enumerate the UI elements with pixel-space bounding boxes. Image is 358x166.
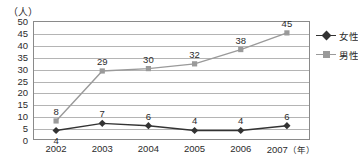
data-value-label: 6 [146, 111, 151, 120]
x-axis-unit: （年） [288, 145, 315, 155]
y-axis-tick-label: 0 [23, 136, 28, 145]
data-point-marker [145, 122, 152, 129]
data-point-marker [146, 66, 151, 71]
data-point-marker [237, 127, 244, 134]
data-value-label: 8 [53, 106, 58, 115]
data-point-marker [283, 122, 290, 129]
data-point-marker [52, 127, 59, 134]
square-marker-icon [323, 51, 330, 58]
data-point-marker [191, 127, 198, 134]
x-axis-tick-label: 2004 [138, 143, 159, 154]
line-chart-figure: （人） 05101520253035404550 476446829303238… [0, 0, 358, 166]
x-axis-tick-labels: 200220032004200520062007（年） [33, 143, 310, 159]
y-axis-tick-label: 5 [23, 124, 28, 133]
data-point-marker [192, 61, 197, 66]
x-axis-tick-label: 2003 [92, 143, 113, 154]
y-axis-tick-label: 45 [17, 28, 28, 37]
series-line-female [56, 123, 287, 130]
data-point-marker [284, 30, 289, 35]
data-value-label: 6 [284, 111, 289, 120]
legend-swatch-icon [316, 50, 336, 60]
data-point-marker [53, 118, 58, 123]
data-value-label: 32 [189, 49, 200, 58]
data-value-label: 30 [143, 54, 154, 63]
legend-label: 男性 [339, 48, 358, 62]
x-axis-tick-label: 2007（年） [267, 143, 315, 155]
y-axis-tick-label: 40 [17, 40, 28, 49]
data-value-label: 38 [235, 35, 246, 44]
x-axis-tick-label: 2006 [230, 143, 251, 154]
legend-item-female[interactable]: 女性 [316, 28, 358, 43]
series-layer [33, 21, 310, 140]
y-axis-tick-label: 20 [17, 88, 28, 97]
x-axis-tick-label: 2002 [46, 143, 67, 154]
series-line-male [56, 33, 287, 121]
y-axis-tick-label: 50 [17, 17, 28, 26]
legend-label: 女性 [339, 29, 358, 43]
y-axis-tick-label: 15 [17, 100, 28, 109]
x-axis-tick-label: 2005 [184, 143, 205, 154]
y-axis-tick-label: 25 [17, 76, 28, 85]
legend-item-male[interactable]: 男性 [316, 47, 358, 62]
data-value-label: 7 [100, 109, 105, 118]
y-axis-tick-label: 35 [17, 52, 28, 61]
chart-legend: 女性男性 [316, 28, 358, 66]
data-point-marker [99, 120, 106, 127]
legend-swatch-icon [316, 31, 336, 41]
y-axis-tick-label: 30 [17, 64, 28, 73]
data-value-label: 4 [192, 116, 197, 125]
data-value-label: 4 [238, 116, 243, 125]
diamond-marker-icon [322, 31, 332, 41]
data-value-label: 45 [282, 18, 293, 27]
y-axis-tick-labels: 05101520253035404550 [0, 21, 31, 140]
data-point-marker [238, 47, 243, 52]
data-value-label: 29 [97, 56, 108, 65]
y-axis-tick-label: 10 [17, 112, 28, 121]
data-point-marker [100, 68, 105, 73]
